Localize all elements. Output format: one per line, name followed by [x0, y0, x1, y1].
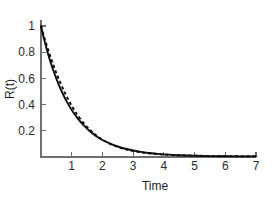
x-tick-label: 2: [99, 159, 106, 173]
axis-lines: [41, 20, 256, 158]
chart-canvas: 1234567 0.20.40.60.81 Time R(t): [0, 0, 273, 201]
y-axis-label: R(t): [3, 79, 17, 99]
axes-group: 1234567 0.20.40.60.81: [18, 19, 259, 173]
x-axis-label: Time: [142, 179, 169, 193]
y-tick-label: 0.2: [18, 124, 35, 138]
x-tick-label: 7: [253, 159, 260, 173]
x-tick-label: 5: [191, 159, 198, 173]
x-tick-label: 4: [161, 159, 168, 173]
y-tick-label: 0.4: [18, 98, 35, 112]
x-tick-label: 1: [68, 159, 75, 173]
x-axis-tick-labels: 1234567: [68, 159, 259, 173]
data-series-group: [41, 26, 256, 156]
x-tick-label: 6: [222, 159, 229, 173]
y-tick-label: 1: [28, 19, 35, 33]
x-tick-label: 3: [130, 159, 137, 173]
y-axis-tick-labels: 0.20.40.60.81: [18, 19, 35, 138]
y-tick-label: 0.8: [18, 45, 35, 59]
y-tick-label: 0.6: [18, 72, 35, 86]
dashed-curve: [41, 26, 256, 156]
chart-figure: 1234567 0.20.40.60.81 Time R(t): [0, 0, 273, 201]
solid-curve: [41, 26, 256, 156]
